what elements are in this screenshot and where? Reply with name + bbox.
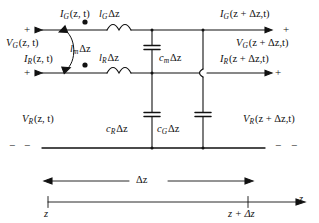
label-delta-z: Δz (136, 175, 147, 186)
label-vr-right-sub: R (249, 117, 254, 126)
label-ir-right-arg: (z + Δz,t) (229, 53, 269, 64)
label-lr-arg: Δz (107, 52, 118, 63)
label-lm-sub: m (73, 47, 78, 56)
label-z-right: z + Δz (228, 209, 255, 220)
arrowhead-deltaz-right (245, 178, 253, 184)
label-z-axis: z (299, 194, 303, 205)
label-vg-left: VG (z, t) (6, 38, 39, 49)
label-vg-left-sub: G (12, 41, 17, 50)
label-ir-left: IR (z, t) (24, 54, 53, 65)
label-vg-right-sub: G (242, 41, 247, 50)
arrowhead-ir-left (35, 70, 42, 76)
label-vr-left: VR (z, t) (22, 114, 54, 125)
node-cr-bottom (151, 147, 154, 150)
label-cm-arg: Δz (170, 52, 181, 63)
polarity-bottom-right-minus-2: − (291, 140, 297, 151)
capacitor-cr-branch (144, 73, 160, 148)
label-vg-right-arg: (z + Δz,t) (249, 37, 289, 48)
label-vg-left-arg: (z, t) (19, 37, 39, 48)
label-ig-left-sub: G (64, 12, 69, 21)
node-cg-top (202, 29, 205, 32)
label-cg-sub: G (162, 127, 167, 136)
middle-conductor (42, 68, 265, 74)
label-cr-sub: R (111, 127, 116, 136)
label-cr: cR Δz (106, 124, 128, 135)
inductor-lg-coil (107, 25, 131, 31)
node-cg-bottom (202, 147, 205, 150)
label-vr-left-sub: R (28, 117, 33, 126)
label-vr-right-arg: (z + Δz,t) (255, 113, 295, 124)
polarity-mid-right-plus: + (275, 67, 281, 78)
capacitor-cm-branch (144, 30, 160, 73)
label-ir-left-arg: (z, t) (33, 53, 53, 64)
label-z-left-text: z (44, 208, 48, 219)
label-lr-sub: R (102, 56, 107, 65)
arrowhead-deltaz-left (44, 178, 52, 184)
z-axis (48, 197, 297, 208)
polarity-bottom-left-minus-2: − (24, 140, 30, 151)
circuit-schematic (0, 0, 319, 223)
polarity-top-right-plus: + (283, 24, 289, 35)
arrowhead-ir-right (265, 70, 272, 76)
node-cm-top (151, 29, 154, 32)
inductor-lr-coil (107, 68, 131, 74)
label-vg-right: VG (z + Δz,t) (236, 38, 289, 49)
label-ir-left-sub: R (28, 57, 33, 66)
label-cr-arg: Δz (116, 123, 127, 134)
label-ig-right-sub: G (224, 12, 229, 21)
capacitor-cg-branch (195, 30, 211, 148)
label-z-left: z (44, 209, 48, 220)
label-ir-right: IR (z + Δz,t) (220, 54, 269, 65)
label-ig-left: IG (z, t) (60, 9, 90, 20)
label-z-right-text: z + Δz (228, 208, 255, 219)
right-terminal-arrows (265, 27, 272, 76)
label-lg: lG Δz (99, 9, 120, 20)
label-vr-left-arg: (z, t) (34, 113, 54, 124)
label-ir-right-sub: R (224, 57, 229, 66)
label-ig-right: IG (z + Δz,t) (220, 9, 270, 20)
dot-marker-lg (82, 19, 87, 24)
node-cm-cr (151, 72, 154, 75)
label-lm-arg: Δz (79, 43, 90, 54)
arrowhead-lm-top (59, 26, 67, 33)
label-cm: cm Δz (159, 53, 181, 64)
label-cm-sub: m (164, 56, 169, 65)
dot-marker-lr (82, 62, 87, 67)
figure-canvas: IG (z, t) + VG (z, t) IR (z, t) + VR (z,… (0, 0, 319, 223)
label-z-axis-text: z (299, 193, 303, 204)
label-cg-arg: Δz (168, 123, 179, 134)
wire-hop-cg (200, 69, 204, 77)
polarity-bottom-left-minus-1: − (9, 140, 15, 151)
label-lg-sub: G (102, 12, 107, 21)
label-lm: lm Δz (70, 44, 91, 55)
label-lr: lR Δz (99, 53, 119, 64)
polarity-mid-left-plus: + (24, 67, 30, 78)
left-terminal-arrows (35, 27, 42, 76)
label-lg-arg: Δz (108, 8, 119, 19)
label-cg: cG Δz (157, 124, 179, 135)
polarity-bottom-right-minus-1: − (275, 140, 281, 151)
label-ig-left-arg: (z, t) (70, 8, 90, 19)
arrowhead-ig-left (35, 27, 42, 33)
label-ig-right-arg: (z + Δz,t) (230, 8, 270, 19)
top-conductor (42, 25, 265, 31)
arrowhead-ig-right (265, 27, 272, 33)
polarity-top-left-plus: + (24, 24, 30, 35)
label-delta-z-text: Δz (136, 174, 147, 185)
label-vr-right: VR (z + Δz,t) (243, 114, 295, 125)
